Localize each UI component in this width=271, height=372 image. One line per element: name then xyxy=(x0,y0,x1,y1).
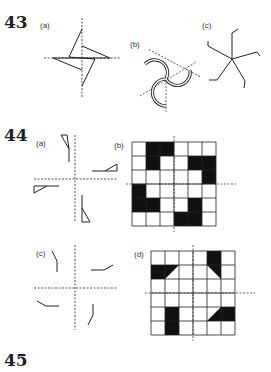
grid-44d xyxy=(145,245,255,341)
figure-44c-forks xyxy=(34,245,117,330)
figures xyxy=(0,0,271,372)
figure-43c-hooked-star xyxy=(208,29,260,88)
figure-43a-pinwheel xyxy=(44,18,120,98)
figure-44a-flags xyxy=(34,135,117,222)
grid-44b xyxy=(126,136,236,232)
figure-43b-tri-arcs xyxy=(140,49,201,112)
